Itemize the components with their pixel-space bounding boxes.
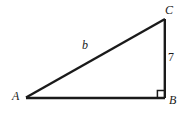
right-angle-marker-icon	[157, 91, 164, 98]
side-label-7: 7	[168, 51, 174, 63]
vertex-label-b: B	[169, 94, 176, 106]
triangle-figure: C B A b 7	[0, 0, 187, 117]
vertex-label-a: A	[12, 90, 19, 102]
vertex-label-c: C	[165, 4, 173, 16]
side-label-b: b	[82, 39, 88, 51]
side-ac-hypotenuse-line	[26, 19, 165, 98]
triangle-drawing	[0, 0, 187, 117]
